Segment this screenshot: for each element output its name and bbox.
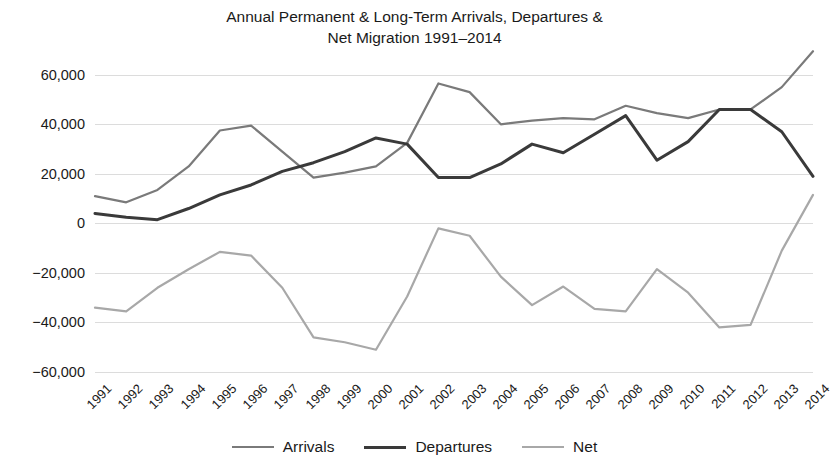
- legend-item-arrivals[interactable]: Arrivals: [232, 438, 335, 456]
- y-axis-tick-label: −60,000: [5, 364, 85, 380]
- y-axis-tick-label: 60,000: [5, 67, 85, 83]
- series-line-departures: [95, 109, 813, 219]
- plot-area: [95, 50, 813, 372]
- series-lines: [95, 50, 813, 372]
- legend-item-net[interactable]: Net: [522, 438, 597, 456]
- legend-swatch-arrivals: [232, 446, 274, 448]
- legend-item-departures[interactable]: Departures: [364, 438, 492, 456]
- y-axis-tick-label: −20,000: [5, 265, 85, 281]
- series-line-arrivals: [95, 51, 813, 202]
- gridline: [95, 372, 813, 373]
- legend-label: Net: [573, 438, 597, 456]
- legend-swatch-departures: [364, 446, 406, 449]
- y-axis-tick-label: 0: [5, 215, 85, 231]
- y-axis-tick-label: 40,000: [5, 116, 85, 132]
- legend-swatch-net: [522, 446, 564, 448]
- y-axis-tick-label: −40,000: [5, 314, 85, 330]
- legend-label: Departures: [415, 438, 492, 456]
- legend-label: Arrivals: [283, 438, 335, 456]
- chart-legend: ArrivalsDeparturesNet: [0, 438, 829, 456]
- series-line-net: [95, 195, 813, 350]
- chart-title: Annual Permanent & Long-Term Arrivals, D…: [0, 6, 829, 48]
- y-axis-tick-label: 20,000: [5, 166, 85, 182]
